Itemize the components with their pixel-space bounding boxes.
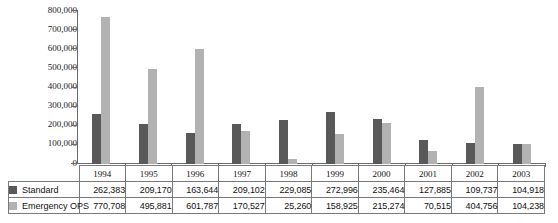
y-axis-tick-label: 700,000: [17, 25, 77, 34]
bar-standard: [232, 124, 241, 164]
table-cell-value: 235,464: [358, 182, 405, 198]
bar-group: [498, 0, 545, 164]
y-axis-tick-label: 100,000: [17, 139, 77, 148]
table-cell-value: 109,737: [451, 182, 498, 198]
bar-group: [218, 0, 265, 164]
y-axis-tick-mark: [71, 125, 77, 126]
y-axis-tick-mark: [71, 106, 77, 107]
table-cell-value: 163,644: [172, 182, 219, 198]
table-cell-value: 215,274: [358, 198, 405, 214]
column-header-year: 2001: [405, 166, 452, 182]
y-axis-tick-mark: [71, 144, 77, 145]
table-cell-value: 104,918: [498, 182, 545, 198]
y-axis-tick-mark: [71, 10, 77, 11]
bar-group: [312, 0, 359, 164]
y-axis-tick-mark: [71, 67, 77, 68]
bar-emergency: [148, 69, 157, 164]
y-axis-tick-mark: [71, 87, 77, 88]
bar-emergency: [382, 123, 391, 164]
y-axis-tick-mark: [71, 29, 77, 30]
y-axis-tick-label: 600,000: [17, 44, 77, 53]
table-cell-value: 229,085: [265, 182, 312, 198]
table-cell-value: 70,515: [405, 198, 452, 214]
bar-group: [265, 0, 312, 164]
bar-emergency: [288, 159, 297, 164]
column-header-year: 2002: [451, 166, 498, 182]
y-axis-tick-label: 300,000: [17, 101, 77, 110]
bar-standard: [186, 133, 195, 164]
y-axis-tick-label: 200,000: [17, 120, 77, 129]
data-table: 1994199519961997199819992000200120022003…: [8, 165, 545, 214]
bar-group: [452, 0, 499, 164]
bar-standard: [92, 114, 101, 164]
bar-standard: [373, 119, 382, 164]
bar-standard: [279, 120, 288, 164]
bar-emergency: [475, 87, 484, 164]
bar-emergency: [428, 151, 437, 164]
table-cell-value: 170,527: [219, 198, 266, 214]
table-cell-value: 495,881: [126, 198, 173, 214]
table-cell-value: 272,996: [312, 182, 359, 198]
bar-group: [78, 0, 125, 164]
bar-group: [125, 0, 172, 164]
legend-swatch-icon: [9, 186, 17, 194]
bars-layer: [78, 0, 545, 164]
bar-standard: [139, 124, 148, 164]
column-header-year: 1997: [219, 166, 266, 182]
legend-swatch-icon: [9, 202, 17, 210]
bar-group: [405, 0, 452, 164]
table-row: Standard262,383209,170163,644209,102229,…: [9, 182, 545, 198]
bar-group: [171, 0, 218, 164]
table-cell-value: 209,102: [219, 182, 266, 198]
legend-label: Standard: [22, 185, 59, 195]
table-row: Emergency OPS770,708495,881601,787170,52…: [9, 198, 545, 214]
y-axis-tick-label: 800,000: [17, 6, 77, 15]
y-axis-tick-mark: [71, 48, 77, 49]
column-header-year: 2003: [498, 166, 545, 182]
bar-emergency: [335, 134, 344, 164]
table-cell-value: 25,260: [265, 198, 312, 214]
table-cell-value: 209,170: [126, 182, 173, 198]
legend-label: Emergency OPS: [22, 201, 89, 211]
bar-emergency: [522, 144, 531, 164]
x-axis-tick-mark: [545, 163, 546, 167]
bar-standard: [419, 140, 428, 164]
table-cell-value: 127,885: [405, 182, 452, 198]
table-cell-value: 262,383: [79, 182, 126, 198]
legend-entry: Standard: [9, 182, 80, 198]
table-cell-value: 104,238: [498, 198, 545, 214]
column-header-year: 1994: [79, 166, 126, 182]
column-header-year: 2000: [358, 166, 405, 182]
y-axis-tick-label: 500,000: [17, 63, 77, 72]
table-cell-value: 404,756: [451, 198, 498, 214]
table-corner-cell: [9, 166, 80, 182]
column-header-year: 1995: [126, 166, 173, 182]
bar-standard: [513, 144, 522, 164]
table-cell-value: 601,787: [172, 198, 219, 214]
bar-standard: [326, 112, 335, 164]
bar-emergency: [101, 17, 110, 164]
legend-entry: Emergency OPS: [9, 198, 80, 214]
column-header-year: 1998: [265, 166, 312, 182]
y-axis-tick-mark: [71, 163, 77, 164]
bar-standard: [466, 143, 475, 164]
bar-group: [358, 0, 405, 164]
bar-emergency: [241, 131, 250, 164]
table-header-row: 1994199519961997199819992000200120022003: [9, 166, 545, 182]
plot-area: 800,000700,000600,000500,000400,000300,0…: [0, 0, 558, 170]
column-header-year: 1996: [172, 166, 219, 182]
table-cell-value: 158,925: [312, 198, 359, 214]
column-header-year: 1999: [312, 166, 359, 182]
y-axis-tick-label: 400,000: [17, 82, 77, 91]
bar-emergency: [195, 49, 204, 164]
